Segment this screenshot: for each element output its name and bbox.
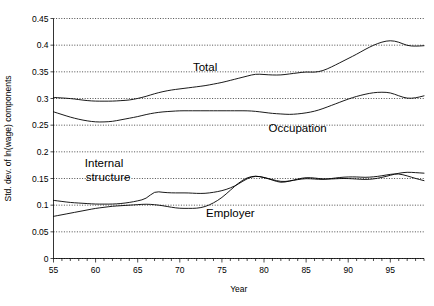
- series-paths-group: [54, 41, 425, 217]
- x-tick-label: 90: [343, 265, 353, 275]
- x-tick-label: 95: [386, 265, 396, 275]
- y-tick-label: 0.3: [37, 94, 49, 104]
- line-chart: 00.050.10.150.20.250.30.350.40.45 556065…: [0, 0, 434, 306]
- x-tick-label: 75: [217, 265, 227, 275]
- x-axis-title: Year: [230, 284, 247, 294]
- y-tick-labels: 00.050.10.150.20.250.30.350.40.45: [32, 14, 49, 264]
- y-tick-label: 0: [44, 254, 49, 264]
- gridlines-group: [54, 19, 425, 259]
- x-tick-label: 80: [259, 265, 269, 275]
- series-labels-group: TotalOccupationInternalstructureEmployer: [85, 61, 327, 219]
- y-tick-marks: [51, 19, 54, 259]
- y-tick-label: 0.15: [32, 174, 49, 184]
- y-tick-label: 0.45: [32, 14, 49, 24]
- series-label-total: Total: [193, 61, 217, 73]
- x-tick-label: 65: [133, 265, 143, 275]
- x-axis: 556065707580859095: [49, 259, 424, 275]
- x-tick-label: 70: [175, 265, 185, 275]
- y-tick-label: 0.2: [37, 147, 49, 157]
- series-line-occupation: [54, 92, 425, 122]
- x-tick-label: 85: [301, 265, 311, 275]
- y-tick-label: 0.1: [37, 200, 49, 210]
- y-axis: 00.050.10.150.20.250.30.350.40.45: [32, 14, 54, 264]
- chart-container: 00.050.10.150.20.250.30.350.40.45 556065…: [0, 0, 434, 306]
- y-tick-label: 0.25: [32, 120, 49, 130]
- series-line-total: [54, 41, 425, 101]
- y-tick-label: 0.4: [37, 40, 49, 50]
- y-axis-title: Std. dev. of ln(wage) components: [3, 76, 13, 202]
- x-tick-labels: 556065707580859095: [49, 265, 396, 275]
- series-label-internal-structure: Internal: [85, 157, 123, 169]
- series-label-internal-structure-line2: structure: [86, 171, 131, 183]
- y-tick-label: 0.05: [32, 227, 49, 237]
- x-tick-marks: [54, 259, 425, 263]
- y-tick-label: 0.35: [32, 67, 49, 77]
- series-label-occupation: Occupation: [269, 122, 327, 134]
- x-tick-label: 55: [49, 265, 59, 275]
- x-tick-label: 60: [91, 265, 101, 275]
- series-label-employer: Employer: [206, 207, 255, 219]
